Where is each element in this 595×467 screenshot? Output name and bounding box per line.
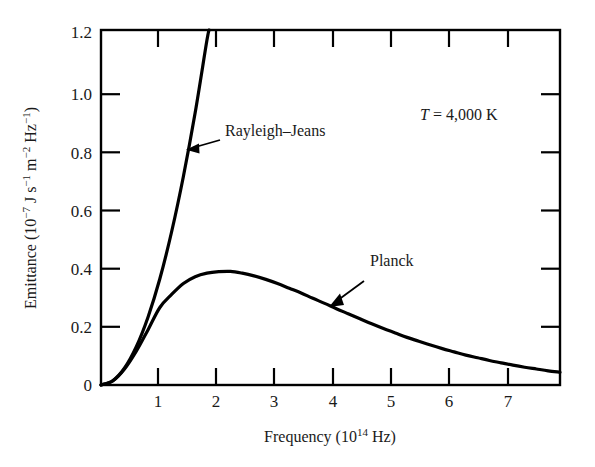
rayleigh-jeans-label: Rayleigh–Jeans bbox=[225, 122, 325, 140]
x-tick-label: 2 bbox=[212, 392, 221, 411]
y-axis-title-e2: −1 bbox=[20, 175, 32, 187]
x-tick-label: 5 bbox=[387, 392, 396, 411]
y-tick-label: 0.6 bbox=[71, 202, 92, 221]
x-axis-title-exponent: 14 bbox=[357, 426, 369, 438]
x-tick-label: 6 bbox=[445, 392, 454, 411]
y-tick-label: 1.2 bbox=[71, 23, 92, 42]
x-tick-label: 1 bbox=[154, 392, 163, 411]
y-tick-label: 0.8 bbox=[71, 144, 92, 163]
x-tick-label: 7 bbox=[504, 392, 513, 411]
y-axis-title-e4: −1 bbox=[20, 112, 32, 124]
x-axis-title-prefix: Frequency (10 bbox=[264, 428, 357, 446]
temperature-annotation: T = 4,000 K bbox=[420, 106, 498, 123]
chart-figure: 1 2 3 4 5 6 7 0 0.2 0.4 0.6 0.8 1.0 1.2 bbox=[0, 0, 595, 467]
planck-label: Planck bbox=[370, 252, 414, 269]
x-axis-title: Frequency (1014 Hz) bbox=[264, 426, 396, 446]
y-tick-label: 1.0 bbox=[71, 85, 92, 104]
x-tick-label: 4 bbox=[329, 392, 338, 411]
y-tick-label: 0 bbox=[84, 376, 93, 395]
x-tick-label: 3 bbox=[270, 392, 279, 411]
y-tick-label: 0.4 bbox=[71, 260, 93, 279]
y-axis-title-e1: −7 bbox=[20, 207, 32, 219]
y-axis-title-p2: J s bbox=[22, 187, 39, 207]
y-axis-title-p3: m bbox=[22, 158, 39, 175]
y-axis-title: Emittance (10−7 J s−1 m−2 Hz−1) bbox=[20, 107, 40, 309]
temperature-value: = 4,000 K bbox=[429, 106, 498, 123]
y-axis-title-p5: ) bbox=[22, 107, 40, 112]
y-axis-title-e3: −2 bbox=[20, 147, 32, 159]
blackbody-emittance-chart: 1 2 3 4 5 6 7 0 0.2 0.4 0.6 0.8 1.0 1.2 bbox=[0, 0, 595, 467]
y-tick-label: 0.2 bbox=[71, 318, 92, 337]
y-axis-title-p4: Hz bbox=[22, 124, 39, 147]
x-axis-title-suffix: Hz) bbox=[368, 428, 396, 446]
y-axis-title-p1: Emittance (10 bbox=[22, 219, 40, 309]
